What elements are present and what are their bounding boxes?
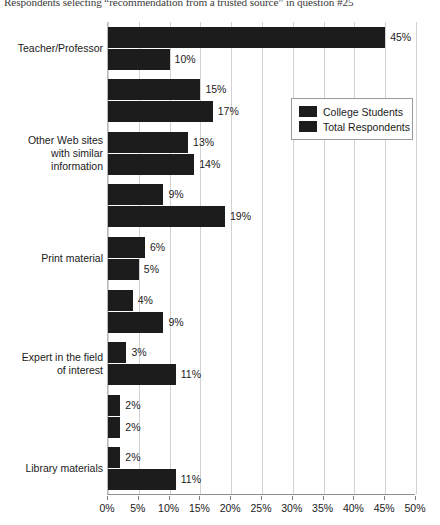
chart-title: Respondents selecting “recommendation fr…: [4, 0, 440, 9]
category-label: Teacher/Professor: [0, 42, 103, 55]
bar-group-row: Expert in the fieldof interest: [0, 180, 440, 233]
x-axis: 0%5%10%15%20%25%30%35%40%45%50%: [0, 496, 440, 525]
legend-item-college-students: College Students: [299, 104, 406, 119]
x-axis-tick-label: 50%: [395, 502, 435, 514]
bar-group-row: Librarian: [0, 390, 440, 443]
x-axis-tick: [292, 496, 293, 500]
x-axis-tick: [353, 496, 354, 500]
x-axis-tick: [169, 496, 170, 500]
bar-group-row: Library materials: [0, 232, 440, 285]
x-axis-tick: [107, 496, 108, 500]
x-axis-tick: [323, 496, 324, 500]
x-axis-tick: [138, 496, 139, 500]
bar-group-row: Friend: [0, 337, 440, 390]
x-axis-tick: [384, 496, 385, 500]
legend-item-total-respondents: Total Respondents: [299, 119, 406, 134]
bar-rows-container: 45%10%Teacher/Professor15%17%Other Web s…: [0, 22, 440, 495]
legend-label: College Students: [323, 106, 403, 118]
chart-plot-wrapper: 45%10%Teacher/Professor15%17%Other Web s…: [0, 22, 440, 496]
legend-label: Total Respondents: [323, 121, 410, 133]
chart-legend: College Students Total Respondents: [291, 98, 413, 140]
x-axis-tick: [199, 496, 200, 500]
bar-group-row: Teacher/Professor: [0, 22, 440, 75]
legend-swatch-icon: [299, 106, 317, 117]
legend-swatch-icon: [299, 121, 317, 132]
x-axis-tick: [261, 496, 262, 500]
x-axis-tick: [415, 496, 416, 500]
bar-group-row: Coworker/professionalcolleague: [0, 442, 440, 495]
bar-group-row: Relative: [0, 285, 440, 338]
x-axis-tick: [230, 496, 231, 500]
